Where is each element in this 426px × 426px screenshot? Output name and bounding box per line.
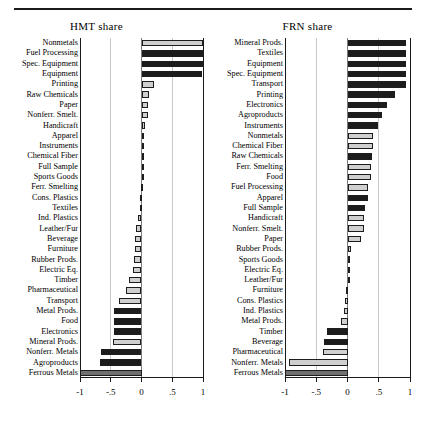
category-label: Furniture bbox=[253, 286, 283, 294]
bar bbox=[348, 195, 368, 201]
category-label: Printing bbox=[52, 80, 78, 88]
category-label: Timber bbox=[259, 328, 283, 336]
bar bbox=[348, 246, 352, 252]
bar-row bbox=[285, 308, 410, 314]
x-axis-tick-label: -1 bbox=[68, 387, 92, 397]
x-axis-tick-label: .5 bbox=[160, 387, 184, 397]
bar-row bbox=[80, 153, 203, 159]
bar-row bbox=[285, 122, 410, 128]
category-label: Furniture bbox=[48, 245, 78, 253]
bar bbox=[348, 174, 371, 180]
bar-row bbox=[285, 370, 410, 376]
bar-row bbox=[285, 256, 410, 262]
category-label: Fuel Processing bbox=[26, 49, 78, 57]
bar-row bbox=[285, 50, 410, 56]
bar-row bbox=[285, 246, 410, 252]
category-label: Handicraft bbox=[248, 214, 283, 222]
bar bbox=[138, 215, 141, 221]
bar bbox=[100, 359, 141, 365]
bar bbox=[142, 81, 154, 87]
bar bbox=[142, 71, 202, 77]
category-label: Pharmaceutical bbox=[233, 348, 283, 356]
bar-row bbox=[285, 133, 410, 139]
bar bbox=[80, 370, 142, 376]
x-axis-tick-label: .5 bbox=[367, 387, 391, 397]
bar bbox=[348, 50, 406, 56]
category-label: Transport bbox=[251, 80, 283, 88]
bar bbox=[142, 61, 205, 67]
bar bbox=[142, 91, 150, 97]
category-label: Ferrous Metals bbox=[29, 369, 78, 377]
bar-row bbox=[285, 339, 410, 345]
x-axis-tick-label: -1 bbox=[273, 387, 297, 397]
bar bbox=[348, 91, 396, 97]
category-label: Electric Eq. bbox=[39, 266, 78, 274]
bar bbox=[348, 236, 361, 242]
bar bbox=[348, 164, 372, 170]
x-axis-tick-label: 1 bbox=[398, 387, 422, 397]
bar bbox=[348, 102, 387, 108]
bar-row bbox=[285, 153, 410, 159]
bar-row bbox=[285, 349, 410, 355]
bar bbox=[348, 267, 350, 273]
category-label: Equipment bbox=[42, 70, 78, 78]
bar bbox=[142, 40, 204, 46]
bar-row bbox=[285, 91, 410, 97]
x-axis-tick bbox=[347, 378, 348, 382]
category-label: Mineral Prods. bbox=[29, 338, 78, 346]
bar bbox=[348, 112, 382, 118]
bar-row bbox=[285, 359, 410, 365]
bar-row bbox=[285, 40, 410, 46]
bar-row bbox=[285, 174, 410, 180]
bar-row bbox=[80, 195, 203, 201]
category-label: Ferrous Metals bbox=[234, 369, 283, 377]
bar bbox=[129, 277, 141, 283]
category-label: Agroproducts bbox=[238, 111, 283, 119]
category-label: Nonferr. Metals bbox=[26, 348, 78, 356]
bar bbox=[135, 246, 142, 252]
category-label: Spec. Equipment bbox=[227, 70, 283, 78]
category-label: Fuel Processing bbox=[231, 183, 283, 191]
bar bbox=[142, 153, 144, 159]
bar bbox=[114, 308, 141, 314]
bar-row bbox=[285, 143, 410, 149]
bar-row bbox=[80, 359, 203, 365]
bar bbox=[141, 184, 143, 190]
x-axis-tick bbox=[316, 378, 317, 382]
bar-row bbox=[80, 164, 203, 170]
category-label: Ferr. Smelting bbox=[31, 183, 78, 191]
bar bbox=[140, 205, 142, 211]
bar-row bbox=[80, 71, 203, 77]
x-axis-tick bbox=[110, 378, 111, 382]
bar-row bbox=[80, 308, 203, 314]
category-label: Printing bbox=[257, 91, 283, 99]
category-label: Equipment bbox=[247, 60, 283, 68]
bar bbox=[348, 71, 406, 77]
bar-row bbox=[80, 81, 203, 87]
bar-row bbox=[285, 277, 410, 283]
category-label: Electric Eq. bbox=[244, 266, 283, 274]
bar bbox=[285, 370, 348, 376]
bar-row bbox=[80, 277, 203, 283]
bar bbox=[348, 61, 406, 67]
category-label: Food bbox=[61, 317, 78, 325]
bar bbox=[348, 205, 366, 211]
x-axis-tick bbox=[410, 378, 411, 382]
bar-row bbox=[285, 164, 410, 170]
bar bbox=[289, 359, 347, 365]
category-label: Handicraft bbox=[43, 122, 78, 130]
bar bbox=[324, 339, 347, 345]
category-label: Leather/Fur bbox=[244, 276, 283, 284]
bar bbox=[345, 298, 348, 304]
bar bbox=[348, 184, 369, 190]
category-label: Cons. Plastics bbox=[32, 194, 78, 202]
bar-row bbox=[80, 318, 203, 324]
bar-row bbox=[80, 133, 203, 139]
bar-row bbox=[285, 112, 410, 118]
bar-row bbox=[285, 225, 410, 231]
bar-row bbox=[80, 225, 203, 231]
category-label: Rubber Prods. bbox=[236, 245, 283, 253]
category-label: Beverage bbox=[47, 235, 78, 243]
category-label: Rubber Prods. bbox=[31, 256, 78, 264]
bar bbox=[113, 339, 142, 345]
